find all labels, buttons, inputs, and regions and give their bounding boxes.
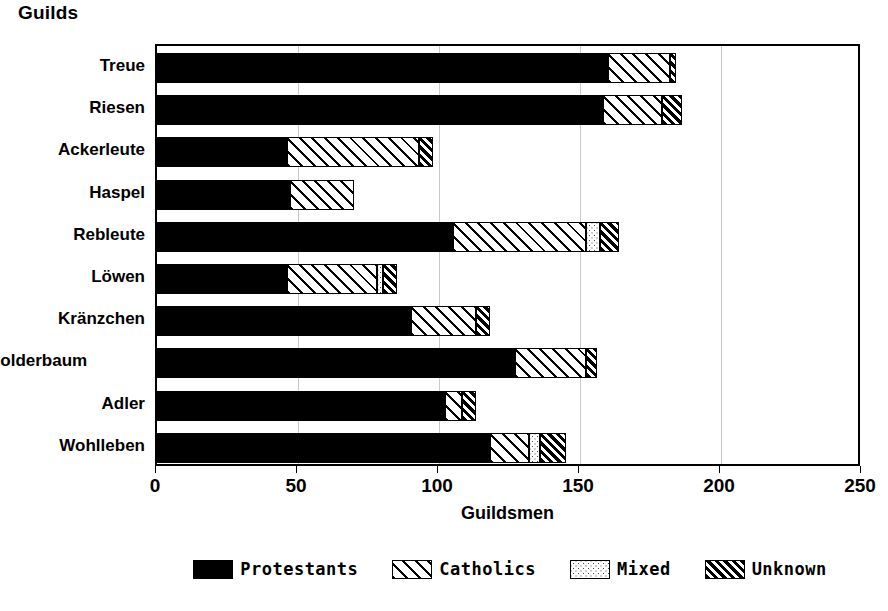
bar-segment-catholics [445, 391, 462, 421]
y-axis-label-ackerleute: Ackerleute [0, 135, 150, 165]
bar-segment-unknown [476, 306, 490, 336]
legend-label-mixed: Mixed [617, 559, 671, 579]
legend-label-catholics: Catholics [439, 559, 536, 579]
x-axis-title: Guildsmen [155, 503, 860, 524]
legend-item-unknown: Unknown [705, 559, 827, 579]
legend-swatch-unknown [705, 560, 745, 579]
y-axis-label-holderbaum: Holderbaum [0, 346, 150, 376]
bar-segment-protestants [157, 264, 287, 294]
x-tick-100 [437, 466, 438, 473]
bar-row [157, 222, 619, 252]
bar-segment-catholics [603, 95, 662, 125]
x-tick-label-150: 150 [562, 475, 594, 497]
x-tick-150 [578, 466, 579, 473]
bar-row [157, 391, 476, 421]
bar-segment-catholics [608, 53, 670, 83]
bar-segment-catholics [411, 306, 476, 336]
y-axis-label-löwen: Löwen [0, 262, 150, 292]
bar-segment-unknown [462, 391, 476, 421]
bar-row [157, 95, 682, 125]
x-tick-label-250: 250 [844, 475, 876, 497]
y-axis-label-treue: Treue [0, 51, 150, 81]
y-axis-label-kränzchen: Kränzchen [0, 304, 150, 334]
bar-row [157, 53, 676, 83]
x-tick-label-200: 200 [703, 475, 735, 497]
y-axis-label-rebleute: Rebleute [0, 220, 150, 250]
y-axis-category-labels: TreueRiesenAckerleuteHaspelRebleuteLöwen… [0, 44, 155, 466]
bar-segment-protestants [157, 433, 490, 463]
bar-row [157, 433, 566, 463]
bar-segment-mixed [586, 222, 600, 252]
legend-item-catholics: Catholics [392, 559, 536, 579]
bar-segment-catholics [287, 137, 420, 167]
bar-row [157, 180, 354, 210]
legend-item-protestants: Protestants [193, 559, 358, 579]
bar-segment-protestants [157, 306, 411, 336]
legend-item-mixed: Mixed [570, 559, 671, 579]
x-tick-label-100: 100 [421, 475, 453, 497]
bar-segment-protestants [157, 391, 445, 421]
bar-segment-catholics [453, 222, 586, 252]
chart-title-guilds: Guilds [18, 2, 78, 24]
legend-swatch-catholics [392, 560, 432, 579]
legend-swatch-protestants [193, 560, 233, 579]
bar-segment-catholics [490, 433, 529, 463]
x-tick-50 [296, 466, 297, 473]
bar-row [157, 137, 433, 167]
bar-segment-mixed [529, 433, 540, 463]
bar-segment-protestants [157, 222, 453, 252]
bar-segment-catholics [515, 348, 586, 378]
bar-segment-protestants [157, 95, 603, 125]
bar-segment-unknown [419, 137, 433, 167]
y-axis-label-wohlleben: Wohlleben [0, 431, 150, 461]
gridline-200 [721, 46, 722, 464]
x-tick-label-50: 50 [285, 475, 306, 497]
bar-row [157, 306, 490, 336]
bar-segment-catholics [287, 264, 377, 294]
x-tick-0 [155, 466, 156, 473]
plot-area [155, 44, 860, 466]
bar-segment-unknown [383, 264, 397, 294]
x-tick-250 [860, 466, 861, 473]
y-axis-label-adler: Adler [0, 389, 150, 419]
chart-legend: ProtestantsCatholicsMixedUnknown [155, 552, 865, 586]
bar-segment-unknown [540, 433, 565, 463]
x-tick-label-0: 0 [150, 475, 161, 497]
bar-segment-unknown [586, 348, 597, 378]
bar-segment-unknown [662, 95, 682, 125]
bar-row [157, 264, 397, 294]
bar-segment-protestants [157, 348, 515, 378]
legend-swatch-mixed [570, 560, 610, 579]
x-axis: 050100150200250 [155, 466, 860, 506]
x-tick-200 [719, 466, 720, 473]
bar-segment-catholics [290, 180, 355, 210]
legend-label-unknown: Unknown [752, 559, 827, 579]
y-axis-label-riesen: Riesen [0, 93, 150, 123]
bar-segment-unknown [670, 53, 676, 83]
legend-label-protestants: Protestants [240, 559, 358, 579]
bar-row [157, 348, 597, 378]
stacked-bar-chart: Guilds TreueRiesenAckerleuteHaspelRebleu… [0, 0, 888, 611]
bar-segment-protestants [157, 137, 287, 167]
y-axis-label-haspel: Haspel [0, 178, 150, 208]
bar-segment-unknown [600, 222, 620, 252]
bar-segment-protestants [157, 180, 290, 210]
bar-segment-protestants [157, 53, 608, 83]
